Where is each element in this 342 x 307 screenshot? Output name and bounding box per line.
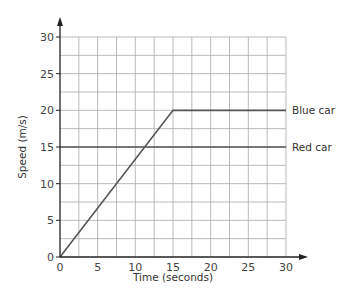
y-tick-label: 25 [40, 68, 54, 81]
series-labels: Blue carRed car [292, 104, 336, 153]
y-tick-label: 20 [40, 104, 54, 117]
y-tick-label: 10 [40, 178, 54, 191]
x-axis-label: Time (seconds) [132, 271, 213, 283]
x-tick-label: 0 [57, 261, 64, 274]
x-tick-label: 25 [241, 261, 255, 274]
x-tick-label: 5 [94, 261, 101, 274]
series-label-blue-car: Blue car [292, 104, 336, 116]
x-axis-arrow-icon [299, 254, 308, 260]
series-label-red-car: Red car [292, 141, 332, 153]
y-tick-labels: 051015202530 [40, 31, 60, 264]
y-tick-label: 30 [40, 31, 54, 44]
y-tick-label: 15 [40, 141, 54, 154]
x-tick-label: 30 [279, 261, 293, 274]
y-tick-label: 0 [47, 251, 54, 264]
y-axis-label: Speed (m/s) [16, 115, 28, 179]
y-axis-arrow-icon [57, 17, 63, 26]
axes [57, 17, 308, 260]
speed-time-chart: 051015202530 051015202530 Blue carRed ca… [0, 0, 342, 307]
y-tick-label: 5 [47, 214, 54, 227]
